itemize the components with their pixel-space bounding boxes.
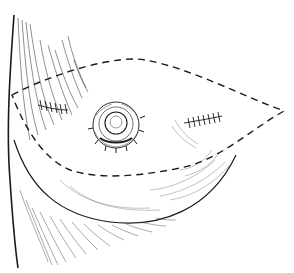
left-suture-mark: [38, 100, 68, 114]
right-suture-mark: [184, 112, 222, 128]
areola-nipple: [88, 102, 145, 153]
illustration-canvas: [0, 0, 294, 273]
dashed-incision-outline: [12, 59, 284, 176]
chest-wall-contour: [8, 15, 88, 268]
breast-incision-diagram: [0, 0, 294, 273]
